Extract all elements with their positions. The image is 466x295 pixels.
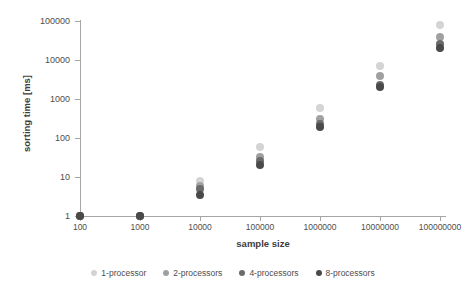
x-axis-tick [200,217,201,221]
data-point [316,104,324,112]
legend-swatch-icon [91,270,97,276]
data-point [256,161,264,169]
legend-swatch-icon [239,270,245,276]
data-point [76,212,84,220]
legend-item-label: 4-processors [249,268,298,278]
legend-swatch-icon [163,270,169,276]
legend-item-label: 1-processor [101,268,146,278]
x-axis-tick-label: 100000 [246,222,274,232]
y-axis-tick-label: 1000 [50,94,70,104]
x-axis-tick [380,217,381,221]
legend-item-4-processors[interactable]: 4-processors [239,268,298,278]
scatter-chart: 1101001000100001000001001000100001000001… [0,0,466,295]
y-axis-tick-label: 100 [55,133,70,143]
data-point [436,44,444,52]
x-axis-tick-label: 100 [73,222,87,232]
y-axis-tick-label: 1 [65,211,70,221]
data-point [316,123,324,131]
legend-item-1-processor[interactable]: 1-processor [91,268,146,278]
x-axis-tick-label: 10000 [188,222,212,232]
chart-legend: 1-processor2-processors4-processors8-pro… [0,268,466,278]
data-point [376,83,384,91]
x-axis-line [80,216,446,217]
x-axis-tick [440,217,441,221]
x-axis-tick-label: 100000000 [419,222,462,232]
data-point [256,143,264,151]
x-axis-tick [260,217,261,221]
data-point [376,72,384,80]
y-axis-tick-label: 10 [60,172,70,182]
y-axis-line [80,20,81,217]
x-axis-tick-label: 1000 [131,222,150,232]
y-axis-title: sorting time [ms] [21,44,32,184]
data-point [196,191,204,199]
x-axis-tick-label: 10000000 [361,222,399,232]
legend-item-label: 2-processors [173,268,222,278]
legend-item-8-processors[interactable]: 8-processors [316,268,375,278]
legend-item-2-processors[interactable]: 2-processors [163,268,222,278]
legend-swatch-icon [316,270,322,276]
y-axis-tick-label: 100000 [40,16,70,26]
x-axis-title: sample size [80,238,446,249]
x-axis-tick [320,217,321,221]
legend-item-label: 8-processors [326,268,375,278]
x-axis-tick-label: 1000000 [303,222,336,232]
y-axis-tick-label: 10000 [45,55,70,65]
data-point [136,212,144,220]
data-point [436,21,444,29]
data-point [376,62,384,70]
